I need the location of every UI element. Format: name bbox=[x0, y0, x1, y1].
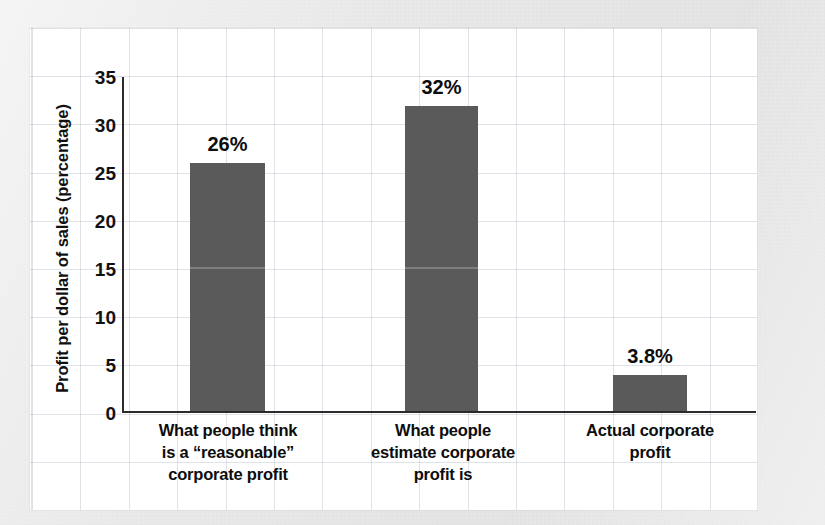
bar-value-label-2: 3.8% bbox=[583, 346, 717, 366]
category-label-0-line-1: is a “reasonable” bbox=[108, 442, 348, 464]
x-axis-line bbox=[122, 411, 756, 413]
category-label-0-line-0: What people think bbox=[108, 420, 348, 442]
category-label-1-line-2: profit is bbox=[323, 464, 563, 486]
category-label-0: What people think is a “reasonable” corp… bbox=[108, 420, 348, 486]
y-tick-35: 35 bbox=[72, 68, 116, 87]
y-tick-25: 25 bbox=[72, 164, 116, 183]
bar-ghost-line bbox=[190, 267, 265, 269]
plot-area: Profit per dollar of sales (percentage) … bbox=[0, 0, 825, 525]
y-tick-20: 20 bbox=[72, 212, 116, 231]
y-axis-line bbox=[122, 77, 124, 413]
category-label-0-line-2: corporate profit bbox=[108, 464, 348, 486]
category-label-1: What people estimate corporate profit is bbox=[323, 420, 563, 486]
y-tick-5: 5 bbox=[72, 356, 116, 375]
y-tick-10: 10 bbox=[72, 308, 116, 327]
bar-actual-corporate-profit[interactable] bbox=[613, 375, 687, 411]
bar-ghost-line bbox=[405, 267, 478, 269]
category-label-2: Actual corporate profit bbox=[534, 420, 766, 464]
y-tick-30: 30 bbox=[72, 116, 116, 135]
category-label-2-line-0: Actual corporate bbox=[534, 420, 766, 442]
category-label-2-line-1: profit bbox=[534, 442, 766, 464]
bar-value-label-1: 32% bbox=[375, 77, 508, 97]
chart-page: Profit per dollar of sales (percentage) … bbox=[0, 0, 825, 525]
bar-what-people-estimate[interactable] bbox=[405, 106, 478, 411]
bar-value-label-0: 26% bbox=[160, 134, 295, 154]
category-label-1-line-1: estimate corporate bbox=[323, 442, 563, 464]
bar-what-people-think-reasonable[interactable] bbox=[190, 163, 265, 411]
y-tick-15: 15 bbox=[72, 260, 116, 279]
category-label-1-line-0: What people bbox=[323, 420, 563, 442]
